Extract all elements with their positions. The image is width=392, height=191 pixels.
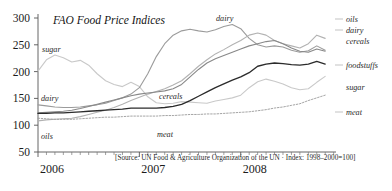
chart-title: FAO Food Price Indices [52,14,165,26]
series-inline-label-dairy: dairy [216,14,234,23]
source-note: [Source: UN Food & Agriculture Organizat… [115,154,355,162]
series-right-label-foodstuffs: foodstuffs [346,61,378,70]
y-tick-label: 50 [19,146,31,158]
y-tick-label: 150 [13,92,31,104]
series-lines-group [38,24,325,120]
right-series-labels: oilsdairycerealsfoodstuffssugarmeat [335,15,378,117]
series-line-oils [38,33,325,121]
series-inline-label-dairy: dairy [41,94,59,103]
series-right-label-sugar: sugar [346,83,365,92]
x-tick-label: 2008 [243,162,267,176]
y-tick-label: 100 [13,119,31,131]
series-inline-label-oils: oils [41,132,53,141]
series-inline-label-meat: meat [157,130,174,139]
series-right-label-oils: oils [346,15,358,24]
x-tick-label: 2007 [141,162,165,176]
inline-series-annotations: sugardairyoilsdairycerealsmeat [41,14,234,141]
x-tick-label: 2006 [40,162,64,176]
series-right-label-dairy: dairy [346,26,364,35]
series-inline-label-sugar: sugar [42,45,61,54]
chart-svg: 50100150200250300 200620072008 FAO Food … [0,0,392,191]
y-tick-label: 200 [13,66,31,78]
fao-food-price-chart: 50100150200250300 200620072008 FAO Food … [0,0,392,191]
y-tick-label: 250 [13,39,31,51]
series-line-foodstuffs [38,61,325,113]
series-right-label-cereals: cereals [346,37,369,46]
y-axis-ticks: 50100150200250300 [13,12,38,158]
y-tick-label: 300 [13,12,31,24]
series-inline-label-cereals: cereals [159,92,182,101]
series-right-label-meat: meat [346,108,363,117]
